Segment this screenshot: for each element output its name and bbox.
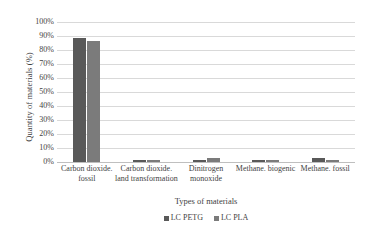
legend-item[interactable]: LC PLA — [214, 214, 248, 222]
legend-item[interactable]: LC PETG — [164, 214, 203, 222]
bar-group — [312, 22, 339, 162]
bar-group — [193, 22, 220, 162]
bar[interactable] — [207, 158, 220, 162]
bar[interactable] — [312, 158, 325, 162]
y-axis-tick-label: 60% — [26, 74, 54, 82]
plot-area — [57, 22, 355, 162]
x-axis-tick-label: Carbon dioxide. land transformation — [114, 164, 180, 183]
x-axis-tick-label: Carbon dioxide. fossil — [54, 164, 120, 183]
bar[interactable] — [147, 160, 160, 162]
y-axis-tick-label: 20% — [26, 130, 54, 138]
bar[interactable] — [73, 38, 86, 162]
bar-group — [252, 22, 279, 162]
y-axis-tick-label: 0% — [26, 158, 54, 166]
x-axis-tick-label: Methane. biogenic — [233, 164, 299, 174]
y-axis-tick-label: 30% — [26, 116, 54, 124]
bar[interactable] — [87, 41, 100, 162]
square-marker-icon — [164, 216, 169, 221]
y-axis-tick-label: 70% — [26, 60, 54, 68]
y-axis-tick-label: 90% — [26, 32, 54, 40]
bar[interactable] — [326, 160, 339, 162]
y-axis-tick-label: 80% — [26, 46, 54, 54]
bar-group — [73, 22, 100, 162]
bar-chart: Quantity of materials (%) 100%90%80%70%6… — [0, 0, 381, 237]
x-axis-tick-label: Dinitrogen monoxide — [173, 164, 239, 183]
y-axis-tick-label: 50% — [26, 88, 54, 96]
bar-group — [133, 22, 160, 162]
gridline — [57, 162, 355, 163]
legend-item-label: LC PLA — [221, 214, 248, 222]
bar[interactable] — [133, 160, 146, 162]
y-axis-tick-label: 10% — [26, 144, 54, 152]
y-axis-tick-labels: 100%90%80%70%60%50%40%30%20%10%0% — [24, 22, 54, 162]
chart-legend: LC PETGLC PLA — [57, 214, 355, 222]
bar[interactable] — [193, 160, 206, 162]
x-axis-title: Types of materials — [57, 196, 355, 206]
x-axis-tick-label: Methane. fossil — [292, 164, 358, 174]
bar[interactable] — [266, 160, 279, 162]
y-axis-tick-label: 100% — [26, 18, 54, 26]
y-axis-tick-label: 40% — [26, 102, 54, 110]
legend-item-label: LC PETG — [171, 214, 203, 222]
bar[interactable] — [252, 160, 265, 162]
x-axis-tick-labels: Carbon dioxide. fossilCarbon dioxide. la… — [57, 164, 355, 194]
square-marker-icon — [214, 216, 219, 221]
